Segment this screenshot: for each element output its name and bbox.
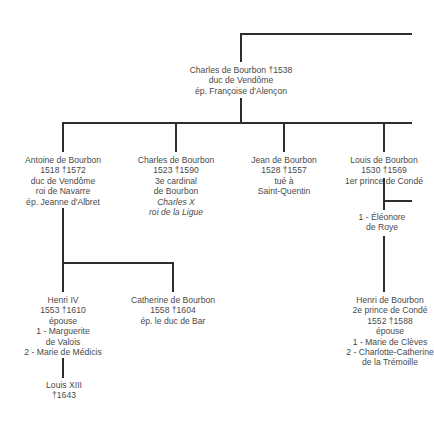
connector-antoine-children-bar	[62, 262, 174, 264]
node-henri-de-bourbon-conde: Henri de Bourbon 2e prince de Condé 1552…	[346, 295, 433, 368]
node-line: 1530 †1569	[345, 165, 423, 175]
node-eleonore-de-roye: 1 - Éléonore de Roye	[359, 212, 406, 233]
node-charles-de-bourbon-cardinal: Charles de Bourbon 1523 †1590 3e cardina…	[138, 155, 214, 217]
node-line-italic: roi de la Ligue	[138, 207, 214, 217]
node-line: 1553 †1610	[24, 305, 101, 315]
connector-jean	[283, 122, 285, 152]
connector-louis-conde-spouse	[383, 200, 412, 202]
node-jean-de-bourbon: Jean de Bourbon 1528 †1557 tué à Saint-Q…	[251, 155, 316, 197]
node-line: épouse	[24, 316, 101, 326]
node-line: Jean de Bourbon	[251, 155, 316, 165]
node-line: Henri IV	[24, 295, 101, 305]
node-line: Henri de Bourbon	[346, 295, 433, 305]
node-line: tué à	[251, 176, 316, 186]
node-line: roi de Navarre	[25, 186, 101, 196]
connector-charles-cardinal	[175, 122, 177, 152]
node-line: 1523 †1590	[138, 165, 214, 175]
node-louis-de-bourbon-conde: Louis de Bourbon 1530 †1569 1er prince d…	[345, 155, 423, 186]
node-line: 2 - Charlotte-Catherine	[346, 347, 433, 357]
connector-antoine	[62, 122, 64, 152]
node-line: Louis XIII	[46, 380, 82, 390]
node-line: Louis de Bourbon	[345, 155, 423, 165]
node-henri-iv: Henri IV 1553 †1610 épouse 1 - Marguerit…	[24, 295, 101, 357]
node-line: de Bourbon	[138, 186, 214, 196]
node-line: 1 - Éléonore	[359, 212, 406, 222]
node-line: ép. Jeanne d'Albret	[25, 197, 101, 207]
connector-sibling-bar	[62, 122, 412, 124]
node-line: duc de Vendôme	[25, 176, 101, 186]
node-line: ép. Françoise d'Alençon	[190, 86, 293, 96]
node-line: 2e prince de Condé	[346, 305, 433, 315]
node-line: 1528 †1557	[251, 165, 316, 175]
connector-root-up	[240, 33, 242, 62]
node-line: 1518 †1572	[25, 165, 101, 175]
node-line-italic: Charles X	[138, 197, 214, 207]
node-catherine-de-bourbon: Catherine de Bourbon 1558 †1604 ép. le d…	[131, 295, 215, 326]
node-line: 1558 †1604	[131, 305, 215, 315]
node-antoine-de-bourbon: Antoine de Bourbon 1518 †1572 duc de Ven…	[25, 155, 101, 207]
node-line: Charles de Bourbon †1538	[190, 65, 293, 75]
node-charles-de-bourbon-root: Charles de Bourbon †1538 duc de Vendôme …	[190, 65, 293, 96]
connector-catherine	[172, 262, 174, 292]
node-line: Antoine de Bourbon	[25, 155, 101, 165]
connector-louis-xiii	[62, 358, 64, 378]
node-line: de la Trémoille	[346, 357, 433, 367]
node-line: duc de Vendôme	[190, 75, 293, 85]
node-line: Saint-Quentin	[251, 186, 316, 196]
node-line: †1643	[46, 390, 82, 400]
node-line: 2 - Marie de Médicis	[24, 347, 101, 357]
connector-antoine-down	[62, 208, 64, 263]
node-line: 1 - Marie de Clèves	[346, 337, 433, 347]
node-louis-xiii: Louis XIII †1643	[46, 380, 82, 401]
node-line: 1 - Marguerite	[24, 326, 101, 336]
connector-root-down	[240, 98, 242, 123]
connector-louis-conde	[383, 122, 385, 152]
connector-eleonore-down	[383, 236, 385, 292]
connector-henri-iv	[62, 262, 64, 292]
node-line: 3e cardinal	[138, 176, 214, 186]
connector-top-bar	[240, 33, 412, 35]
node-line: 1er prince de Condé	[345, 176, 423, 186]
node-line: épouse	[346, 326, 433, 336]
node-line: 1552 †1588	[346, 316, 433, 326]
node-line: de Valois	[24, 337, 101, 347]
node-line: Catherine de Bourbon	[131, 295, 215, 305]
node-line: de Roye	[359, 222, 406, 232]
node-line: Charles de Bourbon	[138, 155, 214, 165]
node-line: ép. le duc de Bar	[131, 316, 215, 326]
